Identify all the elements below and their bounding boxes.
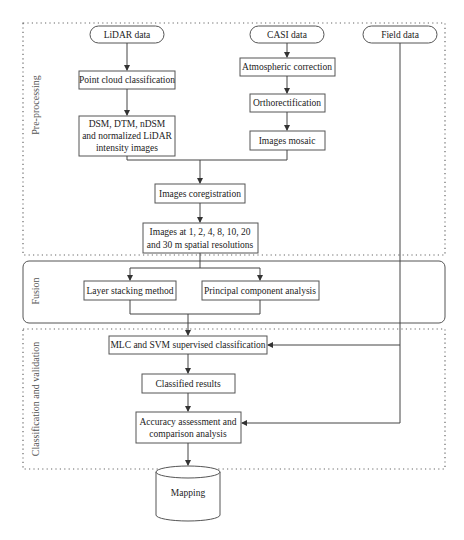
node-mapping-cylinder: Mapping	[156, 466, 220, 521]
node-point-cloud-classification: Point cloud classification	[79, 71, 175, 89]
node-images-mosaic: Images mosaic	[250, 131, 325, 150]
svg-text:CASI data: CASI data	[267, 30, 308, 40]
section-label-fusion: Fusion	[30, 277, 41, 304]
svg-text:Point cloud classification: Point cloud classification	[79, 75, 175, 85]
svg-text:Images coregistration: Images coregistration	[159, 189, 241, 199]
svg-text:and 30 m spatial resolutions: and 30 m spatial resolutions	[147, 240, 254, 250]
node-field-data: Field data	[363, 26, 437, 43]
svg-text:intensity images: intensity images	[96, 143, 158, 153]
node-orthorectification: Orthorectification	[250, 94, 325, 112]
svg-text:Field data: Field data	[381, 30, 420, 40]
node-dsm-dtm-images: DSM, DTM, nDSM and normalized LiDAR inte…	[79, 116, 175, 156]
node-classified-results: Classified results	[142, 374, 235, 393]
svg-text:comparison analysis: comparison analysis	[149, 429, 227, 439]
svg-text:Images at 1, 2, 4, 8, 10, 20: Images at 1, 2, 4, 8, 10, 20	[150, 227, 251, 237]
node-lidar-data: LiDAR data	[90, 26, 164, 43]
node-spatial-resolutions: Images at 1, 2, 4, 8, 10, 20 and 30 m sp…	[143, 223, 258, 253]
node-layer-stacking-method: Layer stacking method	[84, 281, 176, 300]
svg-text:Classified results: Classified results	[155, 379, 220, 389]
svg-text:Mapping: Mapping	[171, 488, 206, 498]
svg-text:Atmospheric correction: Atmospheric correction	[242, 62, 332, 72]
svg-text:Accuracy assessment and: Accuracy assessment and	[139, 417, 236, 427]
svg-text:LiDAR data: LiDAR data	[104, 30, 151, 40]
svg-text:Layer stacking method: Layer stacking method	[86, 286, 173, 296]
node-mlc-svm-classification: MLC and SVM supervised classification	[109, 336, 267, 354]
svg-text:MLC and SVM supervised classif: MLC and SVM supervised classification	[110, 340, 265, 350]
svg-text:Principal component analysis: Principal component analysis	[204, 286, 316, 296]
node-images-coregistration: Images coregistration	[155, 184, 245, 203]
node-accuracy-assessment: Accuracy assessment and comparison analy…	[136, 412, 241, 443]
svg-text:Orthorectification: Orthorectification	[253, 98, 321, 108]
section-label-preprocessing: Pre-processing	[30, 75, 41, 134]
node-casi-data: CASI data	[250, 26, 324, 43]
svg-text:DSM, DTM, nDSM: DSM, DTM, nDSM	[89, 119, 166, 129]
svg-text:and normalized LiDAR: and normalized LiDAR	[82, 131, 172, 141]
svg-text:Images mosaic: Images mosaic	[259, 136, 316, 146]
section-label-classification: Classification and validation	[30, 342, 41, 456]
node-principal-component-analysis: Principal component analysis	[202, 281, 319, 300]
flowchart-diagram: Pre-processing Fusion Classification and…	[0, 0, 464, 540]
node-atmospheric-correction: Atmospheric correction	[240, 58, 335, 76]
